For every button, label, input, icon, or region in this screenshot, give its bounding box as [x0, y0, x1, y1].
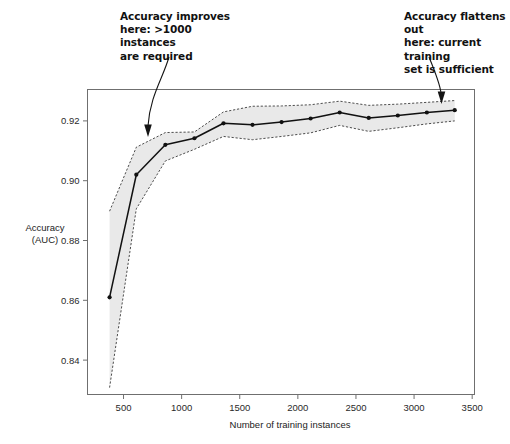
- y-tick-label: 0.86: [61, 295, 80, 306]
- x-tick-label: 1000: [171, 402, 192, 413]
- annotation-text-right: Accuracy flattens out here: current trai…: [404, 10, 510, 76]
- x-tick-label: 3500: [462, 402, 483, 413]
- x-axis-title: Number of training instances: [185, 419, 395, 431]
- data-point-marker: [309, 116, 313, 120]
- data-point-marker: [163, 143, 167, 147]
- y-tick-label: 0.90: [61, 175, 80, 186]
- x-tick-label: 500: [116, 402, 132, 413]
- data-point-marker: [367, 116, 371, 120]
- data-point-marker: [107, 295, 111, 299]
- data-point-marker: [396, 113, 400, 117]
- annotation-arrow-left: [148, 57, 169, 126]
- data-point-marker: [134, 173, 138, 177]
- y-tick-label: 0.84: [61, 355, 80, 366]
- annotation-arrow-left-head: [144, 125, 152, 138]
- annotation-text-left: Accuracy improves here: >1000 instances …: [120, 10, 250, 63]
- data-point-marker: [425, 110, 429, 114]
- data-point-marker: [453, 108, 457, 112]
- data-point-marker: [279, 120, 283, 124]
- data-point-marker: [192, 136, 196, 140]
- data-point-marker: [338, 110, 342, 114]
- data-point-marker: [250, 123, 254, 127]
- x-tick-label: 2500: [345, 402, 366, 413]
- x-tick-label: 3000: [403, 402, 424, 413]
- confidence-band: [110, 101, 455, 388]
- y-tick-label: 0.92: [61, 115, 80, 126]
- confidence-band-fill: [110, 101, 455, 388]
- x-axis-ticks: 500100015002000250030003500: [116, 395, 483, 413]
- x-tick-label: 2000: [287, 402, 308, 413]
- y-axis-title: Accuracy (AUC): [14, 222, 76, 246]
- x-tick-label: 1500: [229, 402, 250, 413]
- data-point-marker: [221, 121, 225, 125]
